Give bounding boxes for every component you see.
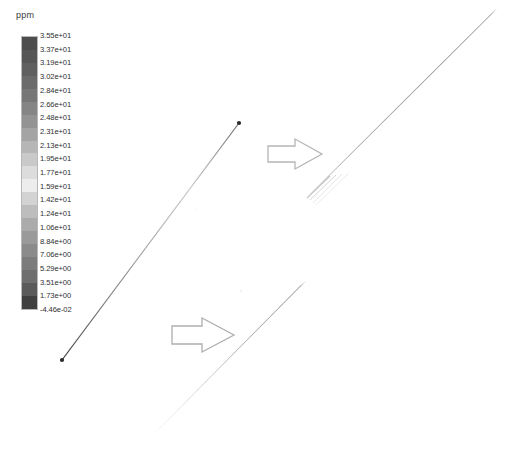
callout-arrow-lower <box>172 318 234 352</box>
plume-detail-lower-band <box>152 281 306 436</box>
callout-arrow-lower-shape <box>172 318 234 352</box>
plume-detail-upper-band <box>307 8 497 198</box>
plume-source-marker <box>60 358 64 362</box>
plume-receptor-marker <box>237 121 241 125</box>
speckle <box>240 290 241 291</box>
figure-canvas: ppm 3.55e+013.37e+013.19e+013.02e+012.84… <box>0 0 506 458</box>
plume-detail-upper <box>307 8 497 205</box>
plume-detail-lower <box>152 281 306 436</box>
plume-detail-upper-frayed-edge-b <box>310 175 336 200</box>
callout-arrow-upper <box>268 139 322 169</box>
plume-centerline <box>62 123 239 360</box>
speckle <box>380 129 381 130</box>
source-plume-line <box>60 121 241 362</box>
callout-arrow-upper-shape <box>268 139 322 169</box>
plot-area <box>0 0 506 458</box>
plot-svg <box>0 0 506 458</box>
background-speckles <box>195 129 381 291</box>
speckle <box>195 209 196 210</box>
